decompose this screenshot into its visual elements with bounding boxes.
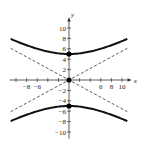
x-axis-arrow-icon (128, 78, 132, 82)
x-tick-label: 10 (119, 83, 127, 91)
y-tick-label: 4 (63, 56, 67, 64)
y-tick-label: −8 (59, 118, 67, 126)
vertex-point (66, 51, 71, 56)
x-axis-label: x (133, 77, 138, 85)
y-tick-label: 8 (63, 35, 67, 43)
y-tick-label: −10 (55, 129, 66, 137)
x-tick-label: −6 (33, 83, 41, 91)
x-tick-label: 8 (110, 83, 114, 91)
y-tick-label: 2 (63, 66, 67, 74)
y-tick-label: −4 (59, 97, 67, 105)
center-point (66, 77, 71, 82)
hyperbola-chart: −8−66810108642−2−4−6−8−10xy (0, 0, 144, 141)
y-tick-label: 10 (59, 25, 67, 33)
vertex-point (66, 103, 71, 108)
y-tick-label: −2 (59, 87, 67, 95)
y-tick-label: −6 (59, 108, 67, 116)
x-tick-label: 6 (99, 83, 103, 91)
y-tick-label: 6 (63, 45, 67, 53)
x-tick-label: −8 (23, 83, 31, 91)
y-axis-label: y (70, 11, 75, 19)
